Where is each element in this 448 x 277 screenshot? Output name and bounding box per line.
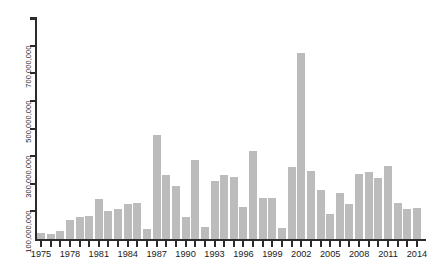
- x-axis-tick: [252, 241, 254, 247]
- x-axis-tick: [271, 241, 273, 247]
- x-axis-tick: [156, 241, 158, 247]
- x-axis-tick: [416, 241, 418, 247]
- x-axis-tick-label: 2014: [400, 249, 434, 259]
- x-axis-tick: [175, 241, 177, 247]
- x-axis-tick: [185, 241, 187, 247]
- x-axis-tick: [88, 241, 90, 247]
- x-axis-tick: [107, 241, 109, 247]
- x-axis-tick: [368, 241, 370, 247]
- x-axis-tick: [59, 241, 61, 247]
- x-axis-tick: [387, 241, 389, 247]
- x-axis-tick: [406, 241, 408, 247]
- x-axis-tick: [50, 241, 52, 247]
- x-axis-tick: [291, 241, 293, 247]
- x-axis-tick: [310, 241, 312, 247]
- x-axis-tick: [339, 241, 341, 247]
- x-axis-tick: [242, 241, 244, 247]
- x-axis-tick: [136, 241, 138, 247]
- x-axis-tick: [79, 241, 81, 247]
- x-axis-tick: [320, 241, 322, 247]
- x-axis-tick: [233, 241, 235, 247]
- x-axis-tick: [281, 241, 283, 247]
- x-axis-tick: [214, 241, 216, 247]
- x-axis-tick: [223, 241, 225, 247]
- x-axis-tick: [204, 241, 206, 247]
- x-axis-tick: [348, 241, 350, 247]
- x-axis-tick: [329, 241, 331, 247]
- x-axis-tick: [397, 241, 399, 247]
- x-axis: 1975197819811984198719901993199619992002…: [0, 0, 448, 277]
- x-axis-tick: [69, 241, 71, 247]
- x-axis-tick: [262, 241, 264, 247]
- x-axis-tick: [358, 241, 360, 247]
- x-axis-tick: [146, 241, 148, 247]
- bar-chart: 100,000,000300,000,000500,000,000700,000…: [0, 0, 448, 277]
- x-axis-tick: [300, 241, 302, 247]
- x-axis-tick: [165, 241, 167, 247]
- x-axis-tick: [98, 241, 100, 247]
- x-axis-tick: [127, 241, 129, 247]
- x-axis-tick: [40, 241, 42, 247]
- x-axis-tick: [117, 241, 119, 247]
- x-axis-tick: [377, 241, 379, 247]
- x-axis-tick: [194, 241, 196, 247]
